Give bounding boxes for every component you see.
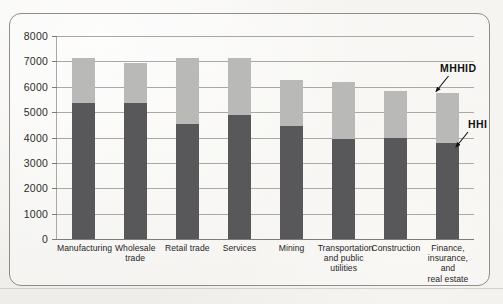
- bar-segment-mhhid: [436, 93, 459, 142]
- x-axis-label: Services: [213, 243, 265, 253]
- gridline-7000: [57, 61, 474, 62]
- gridline-2000: [57, 188, 474, 189]
- x-axis-label: Retail trade: [161, 243, 213, 253]
- y-axis-tick-5000: [52, 112, 57, 113]
- y-axis-tick-6000: [52, 87, 57, 88]
- bar-segment-hhi: [280, 126, 303, 239]
- y-axis-tick-1000: [52, 214, 57, 215]
- gridline-4000: [57, 138, 474, 139]
- bar-segment-mhhid: [176, 58, 199, 124]
- gridline-8000: [57, 36, 474, 37]
- bar-segment-mhhid: [280, 80, 303, 126]
- x-axis-label: Wholesaletrade: [109, 243, 161, 263]
- y-axis-label-2000: 2000: [24, 182, 48, 194]
- bar-segment-hhi: [176, 124, 199, 239]
- figure-page: 800070006000500040003000200010000 Manufa…: [0, 0, 503, 304]
- y-axis-tick-7000: [52, 61, 57, 62]
- bar-segment-hhi: [228, 115, 251, 239]
- bar-stack: [72, 58, 95, 239]
- bar-stack: [124, 63, 147, 239]
- gridline-1000: [57, 214, 474, 215]
- bar-segment-hhi: [384, 138, 407, 240]
- y-axis-tick-0: [52, 239, 57, 240]
- bar-stack: [280, 80, 303, 239]
- y-axis-label-5000: 5000: [24, 106, 48, 118]
- gridline-5000: [57, 112, 474, 113]
- bar-stack: [384, 91, 407, 239]
- y-axis-tick-2000: [52, 188, 57, 189]
- y-axis-tick-4000: [52, 138, 57, 139]
- annotation-label-hhi: HHI: [468, 118, 487, 130]
- x-axis-label: Finance,insurance, andreal estate: [422, 243, 474, 284]
- annotation-label-mhhid: MHHID: [440, 62, 476, 74]
- y-axis-label-6000: 6000: [24, 81, 48, 93]
- y-axis-label-8000: 8000: [24, 30, 48, 42]
- gridline-3000: [57, 163, 474, 164]
- bar-segment-mhhid: [332, 82, 355, 139]
- y-axis-label-4000: 4000: [24, 132, 48, 144]
- y-axis-label-1000: 1000: [24, 208, 48, 220]
- y-axis-label-3000: 3000: [24, 157, 48, 169]
- y-axis-tick-3000: [52, 163, 57, 164]
- scan-artifact-line: [0, 288, 503, 289]
- bar-segment-hhi: [436, 143, 459, 239]
- y-axis-label-0: 0: [42, 233, 48, 245]
- x-axis-baseline: [57, 239, 474, 240]
- plot-area: 800070006000500040003000200010000 Manufa…: [57, 36, 474, 239]
- bar-segment-hhi: [124, 103, 147, 239]
- x-axis-label: Mining: [266, 243, 318, 253]
- bar-stack: [176, 58, 199, 239]
- bar-stack: [228, 58, 251, 239]
- bar-segment-hhi: [332, 139, 355, 239]
- bar-segment-mhhid: [72, 58, 95, 104]
- x-axis-label: Construction: [370, 243, 422, 253]
- y-axis-tick-8000: [52, 36, 57, 37]
- bar-stack: [332, 82, 355, 239]
- y-axis-label-7000: 7000: [24, 55, 48, 67]
- bar-stack: [436, 93, 459, 239]
- bar-segment-mhhid: [384, 91, 407, 138]
- bar-segment-hhi: [72, 103, 95, 239]
- bar-segment-mhhid: [124, 63, 147, 104]
- x-axis-label: Manufacturing: [57, 243, 109, 253]
- x-axis-label: Transportationand publicutilities: [318, 243, 370, 274]
- gridline-6000: [57, 87, 474, 88]
- bar-segment-mhhid: [228, 58, 251, 115]
